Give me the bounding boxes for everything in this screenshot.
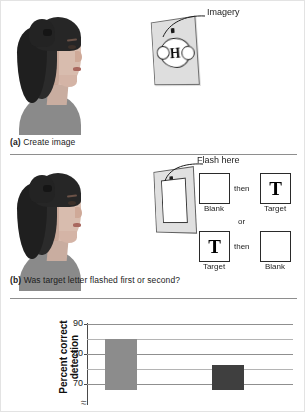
- imagery-letter: H: [169, 45, 180, 61]
- flash-screen-inner: [161, 178, 188, 223]
- hair-tie: [43, 29, 52, 36]
- stimulus-box-target-second: T: [260, 173, 291, 204]
- connector-then-row2: then: [234, 242, 250, 251]
- stimulus-box-blank-first: [199, 173, 230, 204]
- chin: [59, 75, 77, 87]
- imagery-cloud: H: [159, 36, 192, 68]
- alternative-connector-or: or: [238, 217, 245, 226]
- stimulus-label-target-second: Target: [253, 204, 297, 213]
- stimulus-label-blank-second: Blank: [253, 262, 297, 271]
- panel-a-create-image: H Imagery (a) Create image: [1, 1, 305, 149]
- panel-b-flash-task: Flash here Blank then T Target or T Targ…: [1, 151, 305, 291]
- chart-plot-area: [87, 327, 293, 405]
- panel-b-caption: (b) Was target letter flashed first or s…: [10, 275, 180, 285]
- chin: [59, 231, 77, 243]
- connector-then-row1: then: [234, 184, 250, 193]
- chart-bar-0: [105, 339, 137, 390]
- person-profile-illustration-b: [15, 165, 89, 291]
- hair-tie: [43, 185, 52, 192]
- stimulus-letter: T: [208, 237, 221, 256]
- stimulus-box-target-first: T: [199, 231, 230, 262]
- stimulus-label-target-first: Target: [192, 262, 236, 271]
- panel-c-results-chart: Percent correct detection 90 80 70 ≈: [1, 293, 305, 412]
- eye: [68, 201, 76, 205]
- chart-ytick-90: 90: [63, 318, 83, 328]
- panel-a-caption-text: Create image: [23, 137, 75, 147]
- stimulus-box-blank-second: [260, 231, 291, 262]
- nose: [75, 51, 82, 62]
- panel-a-caption: (a) Create image: [10, 137, 75, 147]
- lips: [73, 67, 81, 71]
- panel-b-caption-prefix: (b): [10, 275, 21, 285]
- person-profile-illustration: [15, 9, 89, 137]
- axis-break-icon: ≈: [81, 397, 87, 408]
- chart-ytick-80: 80: [63, 348, 83, 358]
- flash-annotation-label: Flash here: [197, 155, 240, 165]
- imagery-annotation-label: Imagery: [207, 7, 240, 17]
- panel-b-caption-text: Was target letter flashed first or secon…: [24, 275, 180, 285]
- chart-bar-1: [212, 365, 244, 391]
- chart-gridline-90: [87, 324, 293, 325]
- figure-page: H Imagery (a) Create image: [0, 0, 305, 412]
- lips: [73, 223, 81, 227]
- stimulus-letter: T: [269, 179, 282, 198]
- chart-ytick-70: 70: [63, 378, 83, 388]
- eye: [68, 45, 76, 49]
- panel-a-caption-prefix: (a): [10, 137, 21, 147]
- stimulus-label-blank-first: Blank: [192, 204, 236, 213]
- nose: [75, 207, 82, 218]
